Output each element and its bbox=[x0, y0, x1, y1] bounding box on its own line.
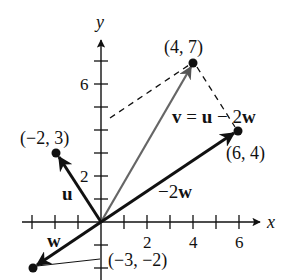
vector-label-w: w bbox=[47, 230, 61, 251]
point-label-4-7: (4, 7) bbox=[164, 37, 203, 58]
vector-label-u: u bbox=[62, 183, 73, 204]
x-axis-label: x bbox=[266, 212, 275, 232]
y-axis-label: y bbox=[94, 12, 104, 32]
vector-diagram: 2 4 6 x 2 6 y bbox=[0, 0, 283, 280]
point-label-neg2-3: (−2, 3) bbox=[20, 128, 69, 149]
point-label-neg3-neg2: (−3, −2) bbox=[108, 250, 167, 271]
vector-label-neg2w: −2w bbox=[158, 181, 192, 202]
point-label-6-4: (6, 4) bbox=[226, 143, 265, 164]
equation-label: v = u − 2w bbox=[172, 106, 256, 127]
point-6-4 bbox=[234, 127, 243, 136]
vector-neg2w bbox=[101, 133, 234, 222]
x-tick-label-6: 6 bbox=[235, 233, 244, 252]
point-4-7 bbox=[189, 59, 198, 68]
y-axis: 2 6 y bbox=[80, 12, 108, 280]
point-neg3-neg2 bbox=[29, 264, 38, 273]
x-tick-label-4: 4 bbox=[189, 233, 198, 252]
y-tick-label-6: 6 bbox=[80, 75, 89, 94]
point-neg2-3 bbox=[52, 149, 61, 158]
y-tick-label-2: 2 bbox=[80, 167, 89, 186]
